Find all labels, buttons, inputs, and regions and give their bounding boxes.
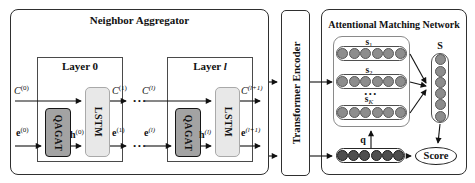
layer-l-title: Layer l (167, 61, 253, 72)
label-e-out-layer-l: e(l+1) (241, 128, 260, 138)
layer-l-qagat-label: QAGAT (183, 114, 193, 151)
label-e-in-layer-l: e(l) (144, 128, 155, 138)
node-circle (337, 48, 348, 59)
node-circle (393, 150, 404, 161)
node-circle (372, 48, 383, 59)
layer0-title: Layer 0 (37, 61, 123, 72)
node-circle (435, 77, 446, 88)
label-c-in-layer-l: C(l) (142, 86, 155, 96)
support-rowK-label: sK (354, 94, 384, 104)
node-circle (383, 107, 394, 118)
layer-l-lstm-block: LSTM (215, 87, 240, 157)
transformer-encoder-label: Transformer Encoder (290, 42, 302, 145)
layer0-title-index: 0 (93, 60, 99, 72)
layer0-qagat-block: QAGAT (45, 108, 71, 157)
layer-l-title-word: Layer (193, 60, 221, 72)
transformer-encoder-box: Transformer Encoder (281, 10, 310, 176)
score-ellipse: Score (415, 147, 457, 165)
label-e-out-layer0: e(1) (112, 128, 125, 138)
node-circle (372, 107, 383, 118)
node-circle (383, 48, 394, 59)
layer0-lstm-block: LSTM (85, 87, 110, 157)
label-c-in-layer0: C(0) (14, 86, 29, 96)
neighbor-aggregator-title: Neighbor Aggregator (10, 15, 269, 26)
node-circle (360, 107, 371, 118)
aggregated-support-label: S (432, 41, 448, 51)
aggregated-support-vector (431, 53, 449, 123)
node-circle (349, 48, 360, 59)
architecture-figure: Neighbor Aggregator Layer 0 QAGAT LSTM L… (0, 0, 475, 183)
layer-l-title-index: l (224, 60, 227, 72)
attentional-matching-network-title: Attentional Matching Network (321, 20, 467, 30)
node-circle (435, 111, 446, 122)
node-circle (371, 150, 382, 161)
layer0-lstm-label: LSTM (92, 107, 103, 137)
label-e-in-layer0: e(0) (16, 128, 29, 138)
node-circle (348, 150, 359, 161)
layer0-title-word: Layer (62, 60, 90, 72)
node-circle (395, 107, 406, 118)
label-c-out-layer-l: C(l+1) (241, 86, 263, 96)
layer-l-qagat-block: QAGAT (175, 108, 201, 157)
support-row1-vector (336, 46, 407, 61)
node-circle (337, 76, 348, 87)
node-circle (395, 48, 406, 59)
node-circle (359, 150, 370, 161)
node-circle (382, 150, 393, 161)
support-rowK-vector (336, 105, 407, 120)
node-circle (435, 88, 446, 99)
query-vector (336, 148, 405, 163)
node-circle (349, 107, 360, 118)
node-circle (337, 107, 348, 118)
node-circle (395, 76, 406, 87)
layer-l-lstm-label: LSTM (222, 107, 233, 137)
node-circle (435, 99, 446, 110)
layer0-qagat-label: QAGAT (53, 114, 63, 151)
node-circle (360, 48, 371, 59)
node-circle (383, 76, 394, 87)
node-circle (435, 54, 446, 65)
label-h-layer0: h(0) (70, 130, 84, 140)
query-label: q (355, 135, 371, 145)
node-circle (435, 66, 446, 77)
label-c-out-layer0: C(1) (112, 86, 127, 96)
label-h-layer-l: h(l) (199, 130, 211, 140)
node-circle (337, 150, 348, 161)
